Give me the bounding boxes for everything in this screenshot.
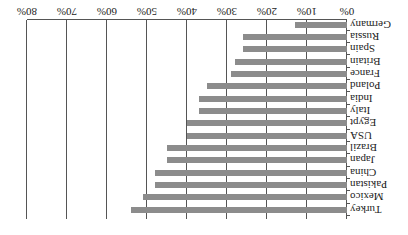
bar-italy xyxy=(199,108,347,114)
category-label: USA xyxy=(350,130,402,142)
category-label: Egypt xyxy=(350,117,402,129)
category-label: Spain xyxy=(350,43,402,55)
x-tick-label: 20% xyxy=(257,6,277,18)
y-tick xyxy=(347,190,350,191)
gridline xyxy=(66,20,67,219)
category-label: Pakistan xyxy=(350,179,402,191)
y-tick xyxy=(347,178,350,179)
gridline xyxy=(146,20,147,219)
category-label: Poland xyxy=(350,80,402,92)
chart-area: 0%10%20%30%40%50%60%70%80% TurkeyMexicoP… xyxy=(0,0,408,235)
x-tick-label: 60% xyxy=(97,6,117,18)
x-tick-label: 80% xyxy=(17,6,37,18)
category-label: Mexico xyxy=(350,191,402,203)
y-tick xyxy=(347,215,350,216)
category-label: France xyxy=(350,68,402,80)
x-tick-label: 10% xyxy=(297,6,317,18)
category-label: Germany xyxy=(350,19,402,31)
y-tick xyxy=(347,42,350,43)
bar-france xyxy=(231,71,347,77)
category-label: Turkey xyxy=(350,204,402,216)
category-label: Japan xyxy=(350,154,402,166)
bar-turkey xyxy=(131,207,347,213)
bar-spain xyxy=(243,46,347,52)
bar-poland xyxy=(207,83,347,89)
y-tick xyxy=(347,141,350,142)
y-tick xyxy=(347,203,350,204)
gridline xyxy=(106,20,107,219)
y-tick xyxy=(347,166,350,167)
x-tick-label: 40% xyxy=(177,6,197,18)
category-label: Italy xyxy=(350,105,402,117)
category-label: Russia xyxy=(350,31,402,43)
bar-pakistan xyxy=(155,182,347,188)
bar-brazil xyxy=(167,145,347,151)
y-tick xyxy=(347,79,350,80)
bar-china xyxy=(155,170,347,176)
x-axis-line xyxy=(27,19,347,20)
category-label: China xyxy=(350,167,402,179)
y-tick xyxy=(347,54,350,55)
x-tick-label: 30% xyxy=(217,6,237,18)
y-tick xyxy=(347,104,350,105)
bar-mexico xyxy=(143,194,347,200)
category-label: India xyxy=(350,93,402,105)
bar-india xyxy=(199,96,347,102)
x-tick-label: 70% xyxy=(57,6,77,18)
bar-japan xyxy=(167,157,347,163)
y-tick xyxy=(347,67,350,68)
bar-germany xyxy=(295,22,347,28)
x-tick-label: 50% xyxy=(137,6,157,18)
bar-russia xyxy=(243,34,347,40)
bar-usa xyxy=(187,133,347,139)
gridline xyxy=(26,20,27,219)
bar-britain xyxy=(235,59,347,65)
x-tick-label: 0% xyxy=(340,6,355,18)
y-tick xyxy=(347,153,350,154)
category-label: Britain xyxy=(350,56,402,68)
y-tick xyxy=(347,91,350,92)
category-label: Brazil xyxy=(350,142,402,154)
y-tick xyxy=(347,116,350,117)
y-tick xyxy=(347,129,350,130)
y-tick xyxy=(347,30,350,31)
bar-egypt xyxy=(187,120,347,126)
